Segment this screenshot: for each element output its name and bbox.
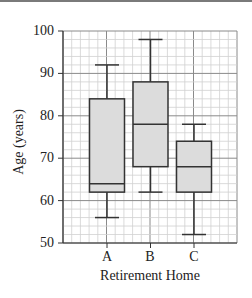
x-tick-c: C [189,249,198,265]
y-tick-90: 90 [14,65,54,81]
x-axis-label: Retirement Home [100,268,200,284]
y-tick-50: 50 [14,235,54,251]
y-tick-100: 100 [14,23,54,39]
x-tick-a: A [102,249,112,265]
x-tick-b: B [145,249,154,265]
y-tick-60: 60 [14,193,54,209]
box-plot [0,0,252,298]
y-tick-70: 70 [14,150,54,166]
y-tick-80: 80 [14,108,54,124]
box-a [90,99,125,192]
